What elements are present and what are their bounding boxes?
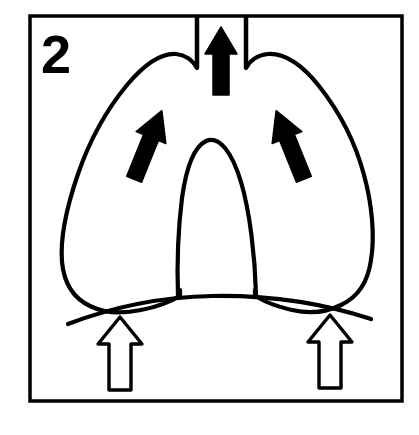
- figure-root: 2: [0, 0, 419, 435]
- panel-number: 2: [41, 24, 71, 84]
- diagram-canvas: 2: [0, 0, 419, 435]
